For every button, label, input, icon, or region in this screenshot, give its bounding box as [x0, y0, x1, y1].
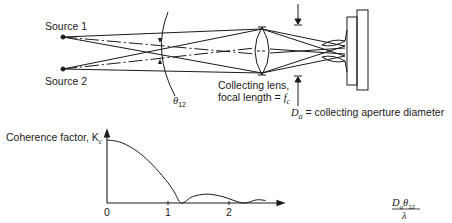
detector-outer	[357, 10, 368, 90]
source-2-label: Source 2	[45, 75, 87, 87]
detector-inner	[347, 17, 357, 85]
y-axis-label: Coherence factor, Kc	[6, 131, 102, 148]
chart-axes	[105, 130, 285, 206]
x-axis-label-denominator: λ	[402, 210, 407, 222]
rays	[63, 29, 347, 73]
x-tick-label: 0	[104, 206, 110, 218]
source-1-label: Source 1	[45, 20, 87, 32]
coherence-curve	[107, 140, 266, 203]
angle-label: θ12	[173, 94, 186, 111]
x-tick-label: 1	[165, 206, 171, 218]
aperture-arrows	[294, 4, 302, 106]
x-tick-label: 2	[226, 206, 232, 218]
angle-arc	[161, 12, 175, 96]
aperture-label: Da = collecting aperture diameter	[291, 106, 444, 123]
lens-label: Collecting lens, focal length = fc	[218, 79, 290, 108]
